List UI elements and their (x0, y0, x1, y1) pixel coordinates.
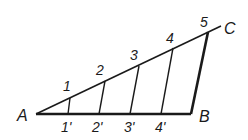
parallel-1 (68, 98, 70, 114)
label-ray-1: 1 (63, 78, 71, 94)
label-ray-3: 3 (130, 47, 138, 63)
label-seg-2: 2' (91, 119, 104, 135)
label-seg-4: 4' (155, 119, 167, 135)
label-a: A (16, 107, 28, 124)
label-b: B (199, 108, 210, 125)
parallel-4 (161, 48, 173, 114)
label-ray-2: 2 (95, 62, 104, 78)
label-c: C (224, 20, 236, 37)
segment-division-diagram: A B C 1 2 3 4 5 1' 2' 3' 4' (0, 0, 248, 140)
line-5-b (191, 32, 208, 114)
label-seg-3: 3' (124, 119, 136, 135)
label-ray-4: 4 (166, 30, 174, 46)
parallel-3 (130, 66, 139, 114)
label-ray-5: 5 (200, 14, 208, 30)
parallel-2 (99, 81, 105, 114)
label-seg-1: 1' (61, 119, 73, 135)
